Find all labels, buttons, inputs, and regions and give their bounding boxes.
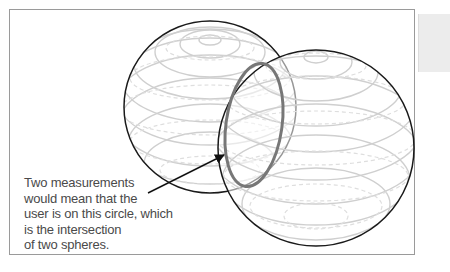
caption: Two measurements would mean that the use… [24,175,224,253]
caption-line: of two spheres. [24,237,224,253]
caption-line: would mean that the [24,191,224,207]
caption-line: user is on this circle, which [24,206,224,222]
latitude-line [180,30,240,58]
caption-line: Two measurements [24,175,224,191]
caption-line: is the intersection [24,222,224,238]
right-sphere [210,43,422,246]
